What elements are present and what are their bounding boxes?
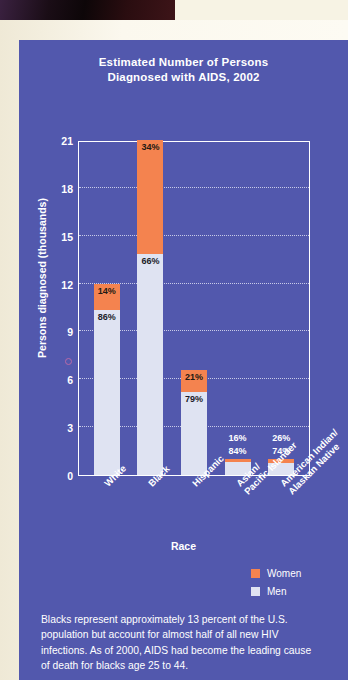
y-tick-label-12: 12: [33, 279, 73, 291]
bar-segment-women[interactable]: 21%: [181, 370, 207, 392]
bar-segment-men[interactable]: 79%: [181, 392, 207, 475]
legend-swatch-icon: [251, 587, 260, 596]
chart-panel: Estimated Number of Persons Diagnosed wi…: [19, 40, 348, 680]
chart-title-line-1: Estimated Number of Persons: [19, 55, 348, 70]
bar-slot: 34%66%: [129, 142, 173, 475]
bar-slot: 26%74%: [259, 142, 303, 475]
men-percent-label: 84%: [218, 446, 258, 456]
bar-group: 14%86%34%66%21%79%16%84%26%74%: [79, 142, 309, 475]
bar-segment-men[interactable]: 86%: [94, 310, 120, 475]
men-percent-label: 79%: [181, 392, 207, 405]
chart-title: Estimated Number of Persons Diagnosed wi…: [19, 40, 348, 84]
men-percent-label: 86%: [94, 310, 120, 323]
bar-slot: 21%79%: [172, 142, 216, 475]
footer-note: Blacks represent approximately 13 percen…: [41, 612, 313, 674]
women-percent-label: 14%: [94, 284, 120, 297]
legend-item-women[interactable]: Women: [251, 568, 301, 579]
y-tick-label-6: 6: [33, 374, 73, 386]
x-label-slot: White: [84, 477, 128, 539]
x-axis-labels: WhiteBlackHispanicAsian/Pacific Islander…: [78, 477, 310, 539]
plot-area: 14%86%34%66%21%79%16%84%26%74%: [78, 141, 310, 476]
x-label-slot: American Indian/Alaskan Native: [260, 477, 304, 539]
x-axis-title: Race: [19, 540, 348, 552]
legend-label: Men: [267, 586, 286, 597]
bar-segment-women[interactable]: 34%: [137, 140, 163, 254]
women-percent-label: 34%: [137, 140, 163, 153]
y-tick-label-15: 15: [33, 231, 73, 243]
y-tick-label-21: 21: [33, 135, 73, 147]
x-label-slot: Asian/Pacific Islander: [216, 477, 260, 539]
bar-slot: 14%86%: [85, 142, 129, 475]
chart-title-line-2: Diagnosed with AIDS, 2002: [19, 70, 348, 85]
y-tick-label-0: 0: [33, 470, 73, 482]
stacked-bar[interactable]: 21%79%: [181, 370, 207, 475]
bar-segment-men[interactable]: 66%: [137, 254, 163, 475]
women-percent-label: 16%: [218, 433, 258, 443]
legend-item-men[interactable]: Men: [251, 586, 301, 597]
bar-slot: 16%84%: [216, 142, 260, 475]
y-tick-label-9: 9: [33, 326, 73, 338]
chart-legend: WomenMen: [251, 568, 301, 604]
legend-swatch-icon: [251, 569, 260, 578]
y-axis-ticks: 036912151821: [31, 141, 73, 476]
stacked-bar[interactable]: 34%66%: [137, 140, 163, 475]
men-percent-label: 66%: [137, 254, 163, 267]
decorative-photo-band: [0, 0, 175, 20]
stacked-bar[interactable]: 14%86%: [94, 284, 120, 475]
y-tick-label-3: 3: [33, 422, 73, 434]
bar-segment-women[interactable]: 14%: [94, 284, 120, 311]
x-label-slot: Hispanic: [172, 477, 216, 539]
x-label-slot: Black: [128, 477, 172, 539]
women-percent-label: 21%: [181, 370, 207, 383]
y-tick-label-18: 18: [33, 183, 73, 195]
legend-label: Women: [267, 568, 301, 579]
